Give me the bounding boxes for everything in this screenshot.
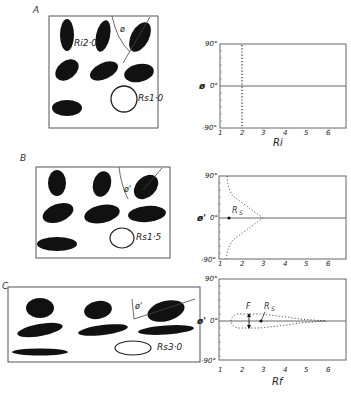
plot-c: F R S bbox=[219, 279, 346, 360]
plot-c-y-top: 90° bbox=[205, 275, 217, 283]
plot-b-y-mid: 0° bbox=[210, 214, 218, 222]
sample-a-rs-label: Rs1·0 bbox=[138, 93, 163, 103]
plot-b-y-axis-label: ø' bbox=[197, 213, 206, 223]
plot-b-x-tick: 2 bbox=[240, 260, 244, 268]
plot-a-x-tick: 4 bbox=[283, 129, 287, 137]
plot-a-y-top: 90° bbox=[205, 40, 217, 48]
plot-c-y-axis-label: ø' bbox=[197, 316, 206, 326]
sample-b-rs-symbol: Rs bbox=[136, 232, 147, 242]
sample-b-angle-label: ø' bbox=[124, 185, 131, 194]
plot-a-y-bottom: -90° bbox=[202, 124, 217, 132]
sample-b bbox=[36, 167, 170, 258]
plot-c-x-tick: 3 bbox=[261, 366, 265, 374]
plot-c-x-tick: 1 bbox=[218, 366, 222, 374]
sample-a-rs-symbol: Rs bbox=[138, 93, 149, 103]
plot-b-x-tick: 1 bbox=[218, 260, 222, 268]
plot-b-x-tick: 3 bbox=[261, 260, 265, 268]
figure-canvas: R S F R S bbox=[0, 0, 351, 395]
plot-a-y-mid: 0° bbox=[210, 82, 218, 90]
plot-c-y-mid: 0° bbox=[210, 317, 218, 325]
sample-a-rs-value: 1·0 bbox=[149, 93, 163, 103]
plot-a-x-tick: 5 bbox=[304, 129, 308, 137]
plot-c-x-tick: 5 bbox=[304, 366, 308, 374]
sample-c-rs-symbol: Rs bbox=[157, 342, 168, 352]
plot-b-rs-annotation: R bbox=[232, 206, 238, 215]
plot-a-x-tick: 1 bbox=[218, 129, 222, 137]
sample-a-ri-label: Ri2·0 bbox=[74, 38, 97, 48]
plot-b-x-tick: 5 bbox=[304, 260, 308, 268]
plot-a-y-axis-label: ø bbox=[199, 81, 205, 91]
plot-c-f-annotation: F bbox=[246, 302, 251, 311]
plot-b: R S bbox=[219, 176, 346, 259]
sample-c-rs-value: 3·0 bbox=[168, 342, 182, 352]
plot-c-y-bottom: -90° bbox=[201, 357, 216, 365]
sample-a-ri-value: 2·0 bbox=[83, 38, 97, 48]
sample-b-rs-value: 1·5 bbox=[147, 232, 161, 242]
plot-a-x-tick: 2 bbox=[240, 129, 244, 137]
sample-c-rs-label: Rs3·0 bbox=[157, 342, 182, 352]
plot-c-rs-annotation: R bbox=[264, 302, 270, 311]
plot-b-y-bottom: -90° bbox=[201, 256, 216, 264]
sample-a-ri-symbol: Ri bbox=[74, 38, 83, 48]
plot-c-x-tick: 2 bbox=[240, 366, 244, 374]
sample-a bbox=[49, 16, 158, 128]
sample-b-rs-label: Rs1·5 bbox=[136, 232, 161, 242]
plot-c-x-tick: 6 bbox=[326, 366, 330, 374]
plot-a-x-axis-label: Ri bbox=[273, 137, 283, 148]
plot-b-x-tick: 4 bbox=[283, 260, 287, 268]
plot-c-rs-subscript: S bbox=[271, 305, 275, 312]
sample-a-angle-label: ø bbox=[120, 25, 125, 34]
plot-a bbox=[220, 44, 346, 128]
plot-c-x-axis-label: Rf bbox=[272, 376, 282, 387]
plot-b-y-top: 90° bbox=[205, 172, 217, 180]
plot-a-x-tick: 6 bbox=[326, 129, 330, 137]
plot-b-x-tick: 6 bbox=[326, 260, 330, 268]
plot-a-x-tick: 3 bbox=[261, 129, 265, 137]
plot-c-x-tick: 4 bbox=[283, 366, 287, 374]
plot-b-rs-subscript: S bbox=[239, 209, 243, 216]
sample-c-angle-label: ø' bbox=[135, 302, 142, 311]
